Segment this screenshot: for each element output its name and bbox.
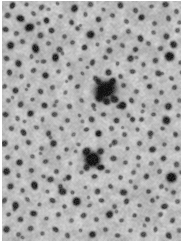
figure-root [0,0,187,245]
star-field-plate [2,1,181,241]
star-field-canvas [2,1,181,241]
